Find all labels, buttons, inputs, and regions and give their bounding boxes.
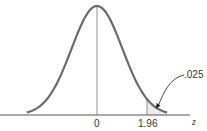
annotation-arrow bbox=[158, 75, 184, 106]
normal-curve-chart bbox=[0, 0, 207, 131]
tail-area-annotation: .025 bbox=[184, 70, 203, 80]
x-axis-label: z bbox=[192, 117, 196, 127]
tick-label-zero: 0 bbox=[94, 119, 100, 129]
tick-label-critical: 1.96 bbox=[138, 119, 157, 129]
